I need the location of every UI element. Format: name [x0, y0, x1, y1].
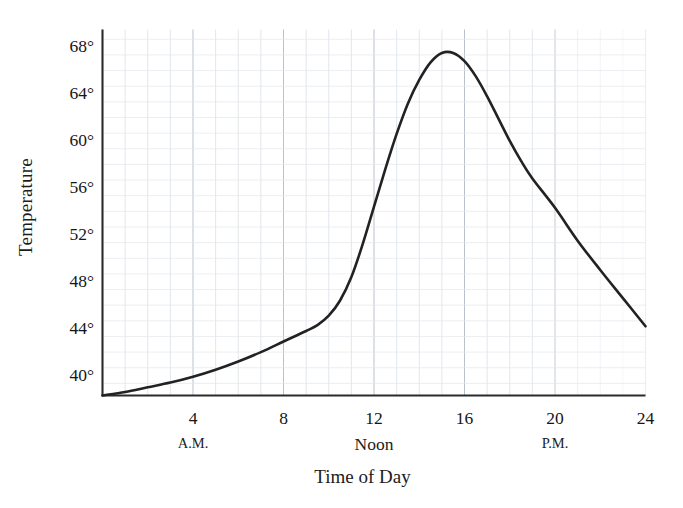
- x-sublabel-pm: P.M.: [505, 436, 605, 451]
- x-axis-title-text: Time of Day: [314, 466, 410, 488]
- x-axis-tick-labels: 4812162024A.M.NoonP.M.: [0, 0, 683, 508]
- x-tick-label-16: 16: [430, 410, 500, 428]
- x-tick-label-12: 12: [339, 410, 409, 428]
- temperature-time-chart: Temperature 68°64°60°56°52°48°44°40° 481…: [0, 0, 683, 508]
- x-tick-label-20: 20: [520, 410, 590, 428]
- x-tick-label-4: 4: [158, 410, 228, 428]
- x-axis-title: Time of Day: [0, 466, 683, 488]
- x-sublabel-am: A.M.: [143, 436, 243, 451]
- x-tick-label-8: 8: [249, 410, 319, 428]
- x-tick-label-24: 24: [611, 410, 681, 428]
- x-sublabel-noon: Noon: [324, 436, 424, 454]
